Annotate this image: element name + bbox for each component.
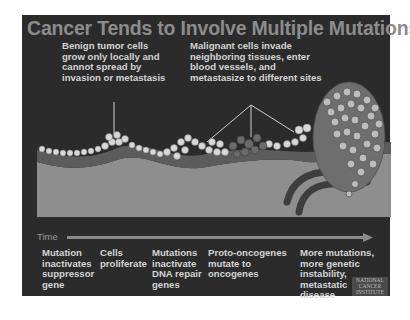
nci-logo: NATIONAL CANCER INSTITUTE xyxy=(352,277,388,296)
time-arrow-icon xyxy=(37,231,377,245)
step-2: Cells proliferate xyxy=(100,248,147,269)
slide-title: Cancer Tends to Involve Multiple Mutatio… xyxy=(27,17,389,40)
step-1: Mutation inactivates suppressor gene xyxy=(42,248,94,290)
timeline: Time xyxy=(37,231,377,245)
pointer-lines xyxy=(114,102,294,142)
tissue-illustration xyxy=(37,42,391,217)
step-4: Proto-oncogenes mutate to oncogenes xyxy=(208,248,287,280)
step-3: Mutations inactivate DNA repair genes xyxy=(152,248,202,290)
slide: Cancer Tends to Involve Multiple Mutatio… xyxy=(22,15,390,296)
